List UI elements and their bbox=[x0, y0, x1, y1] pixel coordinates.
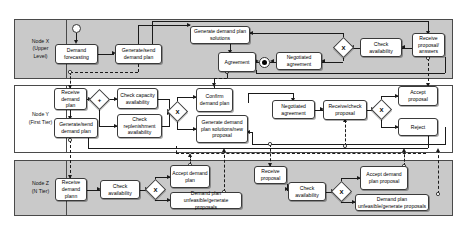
task-z-accept-demand-plan-proposal[interactable]: Accept demand plan proposal bbox=[360, 166, 408, 190]
arrowhead-msg-z-accept2-up bbox=[402, 148, 406, 152]
task-generate-demand-plan-solutions[interactable]: Generate demand plan solutions bbox=[190, 26, 250, 44]
end-event-node-x bbox=[259, 57, 270, 68]
flow-y-reject-back-h bbox=[252, 144, 445, 145]
message-flow-origin-dot-1 bbox=[68, 70, 71, 73]
task-y-generate-demand-plan-solutions-new-proposal[interactable]: Generate demand plan solutions/new propo… bbox=[196, 115, 248, 143]
task-y-confirm-demand-plan[interactable]: Confirm demand plan bbox=[196, 88, 233, 112]
task-z-receive-demand-plann[interactable]: Receive demand plann bbox=[55, 178, 87, 201]
gateway-y-parallel-marker: + bbox=[93, 93, 106, 106]
task-y-negotiated-agreement[interactable]: Negotiated agreement bbox=[272, 100, 315, 119]
message-flow-x-bottom-dashed-v bbox=[138, 64, 139, 72]
flow-gsdp-up bbox=[138, 25, 139, 44]
flow-x-bottom-return-up bbox=[256, 70, 257, 73]
flow-y-gen-to-neg-h bbox=[248, 93, 294, 94]
arrowhead-msg-x-agreement bbox=[212, 83, 216, 87]
task-y-accept-proposal[interactable]: Accept proposal bbox=[398, 86, 438, 106]
message-flow-origin-dot-8 bbox=[343, 144, 346, 147]
task-x-generate-send-demand-plan[interactable]: Generate/send demand plan bbox=[115, 44, 162, 64]
flow-y-top-long bbox=[88, 148, 428, 149]
pool-label-node-y-line-1: Node Y bbox=[32, 111, 49, 117]
task-y-generate-send-demand-plan[interactable]: Generate/send demand plan bbox=[54, 118, 98, 138]
bpmn-diagram-canvas: Node X (Upper Level) Node Y (First Tier)… bbox=[0, 0, 467, 231]
task-y-receive-check-proposal[interactable]: Receive/check proposal bbox=[323, 100, 367, 120]
start-event-node-x bbox=[72, 24, 81, 33]
task-y-reject[interactable]: Reject bbox=[398, 118, 438, 136]
pool-label-node-z-line-2: (N Tier) bbox=[32, 188, 49, 194]
task-y-check-replenishment-availability[interactable]: Check replenishment availability bbox=[117, 114, 162, 138]
pool-label-node-x-line-3: Level) bbox=[33, 53, 47, 59]
flow-y-reject-down bbox=[445, 127, 446, 145]
message-flow-x-rpa-down bbox=[428, 58, 429, 86]
message-flow-origin-dot-2 bbox=[68, 138, 71, 141]
flow-gsdp-up-right bbox=[138, 25, 190, 26]
task-y-check-capacity-availability[interactable]: Check capacity availability bbox=[117, 88, 158, 109]
arrowhead-msg-z-accept-up bbox=[188, 153, 192, 157]
arrowhead-end-left bbox=[270, 59, 274, 63]
flow-x-bottom-return-h bbox=[256, 73, 445, 74]
pool-label-node-x-line-1: Node X bbox=[32, 38, 49, 44]
task-x-check-availability[interactable]: Check availability bbox=[360, 38, 402, 57]
flow-y-gen-up bbox=[248, 93, 249, 103]
task-z-demand-plan-unfeasible-1[interactable]: Demand plan unfeasible/generate proposal… bbox=[170, 192, 242, 209]
pool-label-node-x-line-2: (Upper bbox=[33, 45, 49, 51]
message-flow-x-bottom-dashed bbox=[70, 72, 138, 73]
task-z-accept-demand-plan[interactable]: Accept demand plan bbox=[170, 165, 210, 188]
task-x-agreement[interactable]: Agreement bbox=[218, 52, 256, 72]
message-flow-y-bottom-dashed bbox=[176, 153, 426, 154]
flow-y-replen-right bbox=[162, 126, 170, 127]
gateway-x-exclusive-marker: X bbox=[337, 41, 350, 54]
flow-y-top-long-up-right bbox=[428, 136, 429, 148]
arrowhead-msg-z-unf-to-y bbox=[222, 148, 226, 152]
task-demand-forecasting[interactable]: Demand forecasting bbox=[55, 44, 98, 64]
task-x-negotiated-agreement[interactable]: Negotiated agreement bbox=[276, 52, 322, 70]
pool-label-node-y-line-2: (First Tier) bbox=[29, 119, 53, 125]
message-flow-z-unf-to-y bbox=[224, 150, 225, 192]
message-flow-y-gsdp-to-z-rdp bbox=[70, 140, 71, 178]
gateway-z-exclusive-2-marker: X bbox=[335, 185, 348, 198]
task-y-receive-demand-plan[interactable]: Receive demand plan bbox=[54, 88, 87, 110]
gateway-y-exclusive-1-marker: X bbox=[171, 105, 184, 118]
arrowhead-msg-z-unf2-up bbox=[436, 148, 440, 152]
flow-gwx-to-negotiated bbox=[322, 62, 343, 63]
task-z-receive-proposal[interactable]: Receive proposal bbox=[254, 166, 287, 184]
flow-x-bottom-return-v bbox=[445, 57, 446, 73]
message-flow-z-unf2-up bbox=[438, 150, 439, 194]
flow-gwx-loop-left bbox=[250, 33, 343, 34]
message-flow-y-bottom-dashed-v bbox=[176, 146, 177, 153]
task-z-check-availability-1[interactable]: Check availability bbox=[100, 180, 140, 199]
message-flow-origin-dot-7 bbox=[436, 192, 439, 195]
flow-top-long-right bbox=[152, 21, 428, 22]
flow-y-top-long-up-left bbox=[88, 138, 89, 148]
message-flow-x-agreement-h bbox=[214, 78, 227, 79]
task-receive-proposal-answers[interactable]: Receive proposal/ answers bbox=[412, 33, 445, 57]
message-flow-origin-dot-5 bbox=[268, 142, 271, 145]
gateway-y-exclusive-2-marker: X bbox=[375, 103, 388, 116]
gateway-z-exclusive-1-marker: X bbox=[149, 183, 162, 196]
pool-label-node-z-line-1: Node Z bbox=[32, 180, 49, 186]
task-z-demand-plan-unfeasible-2[interactable]: Demand plan unfeasible/generate proposal… bbox=[355, 194, 429, 211]
message-flow-y-rcp-to-x-rpa bbox=[345, 120, 346, 146]
flow-gsdp-top-up bbox=[152, 21, 153, 44]
task-z-check-availability-2[interactable]: Check availability bbox=[288, 182, 326, 201]
flow-y-reject-back-up bbox=[252, 132, 253, 144]
